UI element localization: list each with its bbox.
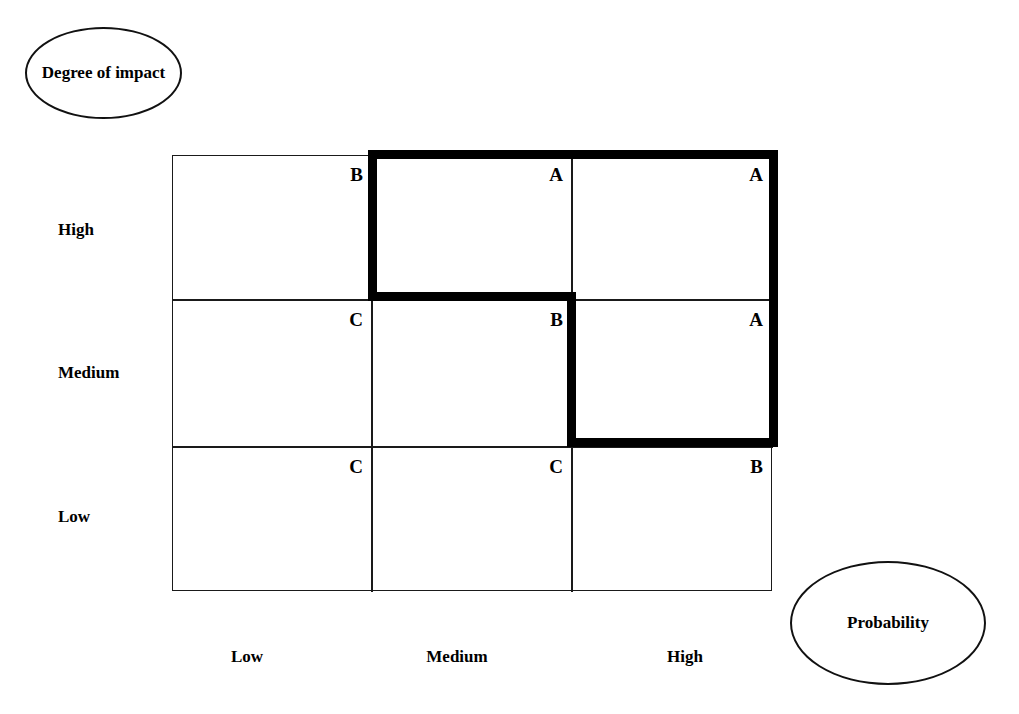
cell-rating: A [549,165,563,184]
degree-of-impact-label: Degree of impact [36,63,171,84]
matrix-cell-high-low[interactable]: B [173,156,373,301]
matrix-cell-medium-low[interactable]: C [173,301,373,448]
cell-rating: C [549,457,563,476]
matrix-cell-high-medium[interactable]: A [373,156,573,301]
matrix-cell-medium-medium[interactable]: B [373,301,573,448]
col-label-high: High [640,648,730,665]
highlight-border-bottom [567,438,778,447]
cell-rating: C [349,457,363,476]
matrix-grid: B A A C B A C C B [172,155,772,591]
col-label-medium: Medium [412,648,502,665]
matrix-cell-low-medium[interactable]: C [373,448,573,592]
cell-rating: A [749,165,763,184]
highlight-border-left-lower [567,292,576,447]
row-label-medium: Medium [58,364,119,381]
risk-matrix-diagram: Degree of impact Probability High Medium… [0,0,1019,714]
degree-of-impact-ellipse: Degree of impact [25,27,182,119]
highlight-border-top [368,150,778,159]
col-label-low: Low [202,648,292,665]
row-label-high: High [58,221,94,238]
cell-rating: B [350,165,363,184]
matrix-cell-low-high[interactable]: B [573,448,773,592]
probability-ellipse: Probability [790,561,986,685]
row-label-low: Low [58,508,90,525]
highlight-border-step-upper [368,292,576,301]
highlight-border-right [769,150,778,447]
cell-rating: B [750,457,763,476]
cell-rating: A [749,310,763,329]
matrix-cell-high-high[interactable]: A [573,156,773,301]
matrix-cell-low-low[interactable]: C [173,448,373,592]
cell-rating: C [349,310,363,329]
matrix-cell-medium-high[interactable]: A [573,301,773,448]
cell-rating: B [550,310,563,329]
highlight-border-left-upper [368,150,377,300]
probability-label: Probability [841,613,935,634]
